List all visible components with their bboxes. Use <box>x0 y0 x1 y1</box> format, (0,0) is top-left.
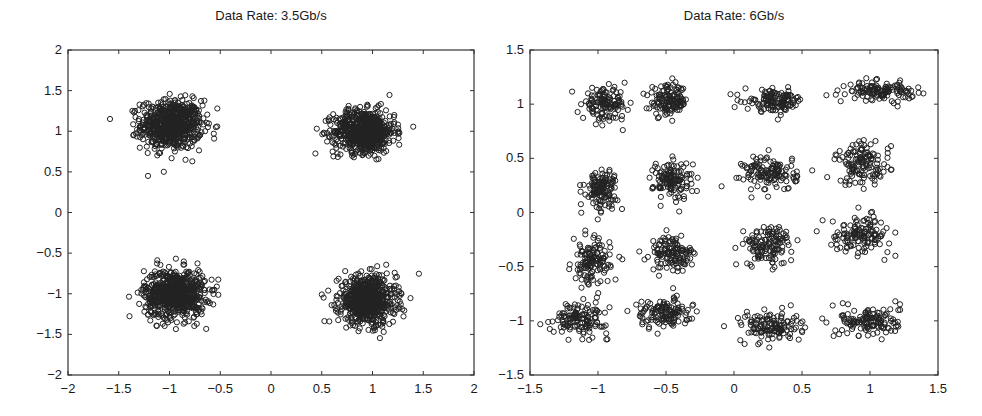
x-axis-tick-labels: −2−1.5−1−0.500.511.52 <box>61 381 478 396</box>
data-point <box>893 253 898 258</box>
x-tick-label: 1 <box>866 381 873 396</box>
data-point <box>845 302 850 307</box>
data-point <box>579 210 584 215</box>
data-point <box>172 149 177 154</box>
data-point <box>161 169 166 174</box>
data-point <box>865 333 870 338</box>
data-point <box>127 314 132 319</box>
data-point <box>137 145 142 150</box>
data-point <box>869 245 874 250</box>
data-point <box>651 267 656 272</box>
data-point <box>766 148 771 153</box>
data-point <box>183 157 188 162</box>
data-point <box>416 271 421 276</box>
data-point <box>326 288 331 293</box>
data-point <box>585 302 590 307</box>
data-point <box>786 85 791 90</box>
data-point <box>174 320 179 325</box>
data-point <box>852 96 857 101</box>
data-point <box>387 92 392 97</box>
data-point <box>670 118 675 123</box>
data-point <box>778 112 783 117</box>
y-tick-label: −1 <box>47 286 62 301</box>
data-point <box>838 99 843 104</box>
data-point <box>408 296 413 301</box>
plot-title: Data Rate: 6Gb/s <box>684 8 785 23</box>
data-point <box>671 157 676 162</box>
data-point <box>578 183 583 188</box>
x-tick-label: −1 <box>162 381 177 396</box>
x-tick-label: 0.5 <box>313 381 331 396</box>
data-point <box>721 324 726 329</box>
data-point <box>856 245 861 250</box>
x-tick-label: −0.5 <box>653 381 679 396</box>
scatter-points <box>538 76 926 351</box>
data-point <box>774 184 779 189</box>
data-point <box>741 229 746 234</box>
data-point <box>689 262 694 267</box>
data-point <box>628 100 633 105</box>
data-point <box>678 168 683 173</box>
data-point <box>692 251 697 256</box>
data-point <box>840 301 845 306</box>
data-point <box>738 338 743 343</box>
data-point <box>169 156 174 161</box>
data-point <box>767 345 772 350</box>
data-point <box>825 175 830 180</box>
data-point <box>803 325 808 330</box>
x-tick-label: 0 <box>730 381 737 396</box>
data-point <box>173 256 178 261</box>
y-tick-label: 0.5 <box>44 164 62 179</box>
data-point <box>578 189 583 194</box>
x-tick-label: −1.5 <box>517 381 543 396</box>
data-point <box>131 122 136 127</box>
data-point <box>885 250 890 255</box>
y-tick-label: −1.5 <box>498 367 524 382</box>
data-point <box>843 182 848 187</box>
data-point <box>695 175 700 180</box>
data-point <box>600 123 605 128</box>
data-point <box>200 103 205 108</box>
data-point <box>401 314 406 319</box>
data-point <box>679 233 684 238</box>
data-point <box>107 116 112 121</box>
data-point <box>605 278 610 283</box>
data-point <box>868 142 873 147</box>
data-point <box>841 84 846 89</box>
data-point <box>593 300 598 305</box>
x-tick-label: 1 <box>369 381 376 396</box>
data-point <box>831 333 836 338</box>
data-point <box>820 316 825 321</box>
data-point <box>571 236 576 241</box>
data-point <box>893 299 898 304</box>
data-point <box>872 182 877 187</box>
y-tick-label: −2 <box>47 367 62 382</box>
y-tick-label: 2 <box>55 42 62 57</box>
data-point <box>145 150 150 155</box>
data-point <box>745 106 750 111</box>
data-point <box>331 112 336 117</box>
x-tick-label: −0.5 <box>207 381 233 396</box>
data-point <box>583 232 588 237</box>
data-point <box>838 178 843 183</box>
y-tick-label: 0 <box>55 205 62 220</box>
data-point <box>853 180 858 185</box>
x-tick-label: 1.5 <box>929 381 947 396</box>
data-point <box>664 228 669 233</box>
data-point <box>861 186 866 191</box>
data-point <box>814 229 819 234</box>
figure: Data Rate: 3.5Gb/s −2−1.5−1−0.500.511.52… <box>0 0 982 416</box>
x-tick-label: 1.5 <box>414 381 432 396</box>
data-point <box>879 337 884 342</box>
data-point <box>538 322 543 327</box>
data-point <box>578 202 583 207</box>
data-point <box>864 76 869 81</box>
data-point <box>820 218 825 223</box>
data-point <box>613 277 618 282</box>
data-point <box>313 151 318 156</box>
data-point <box>135 290 140 295</box>
y-tick-label: 0 <box>517 205 524 220</box>
data-point <box>788 303 793 308</box>
data-point <box>684 161 689 166</box>
data-point <box>204 326 209 331</box>
